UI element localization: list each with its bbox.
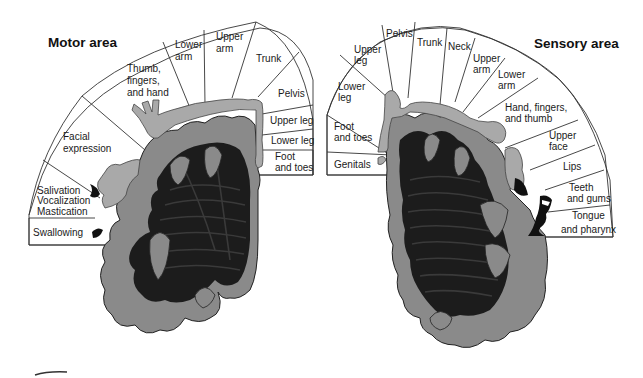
motor-label-trunk: Trunk [256, 53, 282, 64]
motor-area-title: Motor area [48, 35, 118, 50]
homunculus-diagram: Motor area Swallowing Salivation Vocaliz… [0, 0, 643, 378]
motor-label-thumb: Thumb, fingers, and hand [127, 63, 169, 98]
motor-area-panel: Motor area Swallowing Salivation Vocaliz… [29, 22, 314, 375]
sensory-area-panel: Sensory area Genitals Foot and toes Lowe… [327, 22, 619, 348]
sensory-label-trunk: Trunk [417, 37, 443, 48]
sensory-label-neck: Neck [448, 41, 472, 52]
sensory-label-genitals: Genitals [334, 159, 371, 170]
sensory-label-pelvis: Pelvis [386, 28, 413, 39]
motor-label-swallowing: Swallowing [33, 227, 83, 238]
stray-mark [35, 372, 67, 375]
motor-label-lower-leg: Lower leg [271, 135, 314, 146]
sensory-label-lips: Lips [563, 161, 581, 172]
sensory-area-title: Sensory area [534, 36, 619, 51]
motor-label-upper-leg: Upper leg [270, 115, 313, 126]
motor-label-pelvis: Pelvis [278, 88, 305, 99]
